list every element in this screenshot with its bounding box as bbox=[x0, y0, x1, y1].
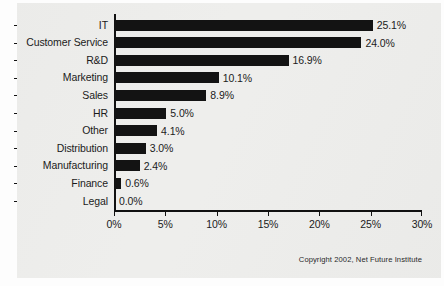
bar-value-label: 3.0% bbox=[150, 141, 174, 155]
x-axis-tick bbox=[371, 212, 372, 216]
y-axis-tick bbox=[14, 113, 17, 114]
y-axis-tick bbox=[14, 131, 17, 132]
chart-page: ITCustomer ServiceR&DMarketingSalesHROth… bbox=[0, 0, 444, 286]
x-axis-tick-label: 5% bbox=[158, 218, 173, 231]
y-axis-tick bbox=[14, 78, 17, 79]
bar-value-label: 16.9% bbox=[293, 53, 322, 67]
bar-row: 0.0% bbox=[114, 193, 422, 211]
bar-value-label: 10.1% bbox=[223, 71, 252, 85]
bar bbox=[115, 55, 289, 66]
x-axis-tick bbox=[217, 212, 218, 216]
category-label: R&D bbox=[17, 53, 108, 67]
y-axis-tick bbox=[14, 201, 17, 202]
category-label: Distribution bbox=[17, 141, 108, 155]
chart-panel: ITCustomer ServiceR&DMarketingSalesHROth… bbox=[17, 3, 441, 278]
y-axis-tick bbox=[14, 25, 17, 26]
y-axis-tick bbox=[14, 95, 17, 96]
bar bbox=[115, 125, 157, 136]
x-axis-tick bbox=[114, 212, 115, 216]
bar-value-label: 4.1% bbox=[161, 124, 185, 138]
x-axis-tick-label: 10% bbox=[206, 218, 227, 231]
bar-row: 8.9% bbox=[114, 87, 422, 105]
x-axis-tick-label: 20% bbox=[309, 218, 330, 231]
bar-row: 0.6% bbox=[114, 175, 422, 193]
horizontal-bar-chart: ITCustomer ServiceR&DMarketingSalesHROth… bbox=[17, 3, 441, 278]
category-label: Marketing bbox=[17, 70, 108, 84]
bar-value-label: 0.6% bbox=[125, 176, 149, 190]
bar-row: 16.9% bbox=[114, 52, 422, 70]
bar-row: 3.0% bbox=[114, 140, 422, 158]
copyright-notice: Copyright 2002, Net Future Institute bbox=[299, 255, 422, 265]
bar bbox=[115, 20, 373, 31]
bar bbox=[115, 108, 166, 119]
x-axis-ticks: 0%5%10%15%20%25%30% bbox=[114, 212, 422, 242]
category-label: IT bbox=[17, 18, 108, 32]
bar-row: 4.1% bbox=[114, 123, 422, 141]
x-axis-tick-label: 15% bbox=[258, 218, 279, 231]
x-axis-tick bbox=[165, 212, 166, 216]
bar bbox=[115, 178, 121, 189]
category-label: HR bbox=[17, 106, 108, 120]
bar-value-label: 2.4% bbox=[144, 159, 168, 173]
bar-value-label: 0.0% bbox=[119, 194, 143, 208]
x-axis-tick bbox=[421, 212, 422, 216]
x-axis-tick-label: 25% bbox=[360, 218, 381, 231]
category-label: Finance bbox=[17, 176, 108, 190]
y-axis-tick bbox=[14, 148, 17, 149]
bar-value-label: 8.9% bbox=[210, 88, 234, 102]
y-axis-tick bbox=[14, 183, 17, 184]
bar bbox=[115, 90, 206, 101]
category-label: Other bbox=[17, 123, 108, 137]
bar bbox=[115, 160, 140, 171]
category-label: Customer Service bbox=[17, 35, 108, 49]
bar-value-label: 25.1% bbox=[377, 18, 406, 32]
category-label: Sales bbox=[17, 88, 108, 102]
bar-row: 24.0% bbox=[114, 35, 422, 53]
bar-value-label: 5.0% bbox=[170, 106, 194, 120]
category-axis-labels: ITCustomer ServiceR&DMarketingSalesHROth… bbox=[17, 14, 108, 210]
category-label: Legal bbox=[17, 194, 108, 208]
bar-value-label: 24.0% bbox=[365, 36, 394, 50]
bar bbox=[115, 37, 361, 48]
bar bbox=[115, 72, 219, 83]
y-axis-tick bbox=[14, 166, 17, 167]
bar bbox=[115, 143, 146, 154]
y-axis-tick bbox=[14, 43, 17, 44]
x-axis-tick-label: 30% bbox=[412, 218, 433, 231]
x-axis-tick bbox=[319, 212, 320, 216]
x-axis-tick-label: 0% bbox=[107, 218, 122, 231]
plot-area: ITCustomer ServiceR&DMarketingSalesHROth… bbox=[114, 14, 422, 210]
bar-row: 10.1% bbox=[114, 70, 422, 88]
bar-row: 25.1% bbox=[114, 17, 422, 35]
bar-rows: 25.1%24.0%16.9%10.1%8.9%5.0%4.1%3.0%2.4%… bbox=[114, 14, 422, 210]
category-label: Manufacturing bbox=[17, 158, 108, 172]
bar-row: 5.0% bbox=[114, 105, 422, 123]
bar-row: 2.4% bbox=[114, 158, 422, 176]
y-axis-tick bbox=[14, 60, 17, 61]
x-axis-tick bbox=[268, 212, 269, 216]
